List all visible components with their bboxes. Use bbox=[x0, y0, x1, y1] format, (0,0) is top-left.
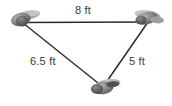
edge-label-right: 5 ft bbox=[129, 55, 145, 67]
bird-head-icon bbox=[136, 15, 147, 24]
bird-head-icon bbox=[16, 16, 28, 27]
edge-label-left: 6.5 ft bbox=[30, 55, 56, 67]
vertex-marker-top-left bbox=[10, 9, 41, 28]
vertex-marker-top-right bbox=[134, 9, 164, 27]
edge-label-top: 8 ft bbox=[75, 4, 91, 16]
bird-head-icon bbox=[91, 84, 103, 94]
edge-top-8ft bbox=[23, 22, 148, 23]
triangle-distance-diagram: 8 ft 6.5 ft 5 ft bbox=[0, 0, 172, 106]
